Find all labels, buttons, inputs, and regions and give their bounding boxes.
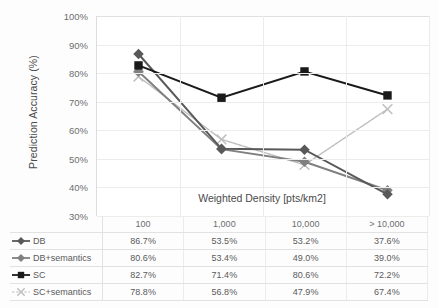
y-axis-tick-labels: 30%40%50%60%70%80%90%100% [34,0,92,216]
table-cell-value: 71.4% [184,267,265,284]
table-header-corner [10,216,103,233]
table-row: DB+semantics80.6%53.4%49.0%39.0% [10,250,428,267]
table-cell-value: 39.0% [346,250,427,267]
legend-marker-icon [12,270,30,280]
legend-label: SC [33,271,46,280]
plot-area [96,16,430,216]
legend-item-db-plus-semantics[interactable]: DB+semantics [10,250,103,267]
y-axis-tick-label: 40% [69,182,88,193]
table-header-row: 1001,00010,000> 10,000 [10,216,428,233]
x-axis-category-label: 10,000 [265,216,346,233]
table-cell-value: 53.2% [265,233,346,250]
data-table: 1001,00010,000> 10,000DB86.7%53.5%53.2%3… [10,216,428,301]
legend-label: DB [33,237,46,246]
table-row: SC+semantics78.8%56.8%47.9%67.4% [10,284,428,301]
table-cell-value: 86.7% [103,233,184,250]
y-axis-tick-label: 100% [64,11,88,22]
table-cell-value: 80.6% [265,267,346,284]
y-axis-tick-label: 60% [69,125,88,136]
table-cell-value: 67.4% [346,284,427,301]
x-axis-category-label: > 10,000 [346,216,427,233]
y-axis-tick-label: 50% [69,153,88,164]
y-axis-tick-label: 70% [69,96,88,107]
y-axis-tick-label: 80% [69,68,88,79]
table-cell-value: 37.6% [346,233,427,250]
table-cell-value: 53.5% [184,233,265,250]
x-axis-title: Weighted Density [pts/km2] [96,192,428,204]
column-separator [263,16,264,216]
column-separator [180,16,181,216]
x-axis-category-label: 100 [103,216,184,233]
legend-label: DB+semantics [33,254,91,263]
y-axis-tick-label: 90% [69,39,88,50]
legend-marker-icon [12,287,30,297]
legend-item-sc[interactable]: SC [10,267,103,284]
table-cell-value: 56.8% [184,284,265,301]
table-cell-value: 47.9% [265,284,346,301]
data-table-body: 1001,00010,000> 10,000DB86.7%53.5%53.2%3… [10,216,428,301]
table-cell-value: 82.7% [103,267,184,284]
table-cell-value: 78.8% [103,284,184,301]
table-row: SC82.7%71.4%80.6%72.2% [10,267,428,284]
legend-item-db[interactable]: DB [10,233,103,250]
legend-item-sc-plus-semantics[interactable]: SC+semantics [10,284,103,301]
column-separator [346,16,347,216]
x-axis-category-label: 1,000 [184,216,265,233]
table-cell-value: 49.0% [265,250,346,267]
table-cell-value: 80.6% [103,250,184,267]
table-cell-value: 72.2% [346,267,427,284]
legend-marker-icon [12,253,30,263]
table-row: DB86.7%53.5%53.2%37.6% [10,233,428,250]
legend-marker-icon [12,236,30,246]
legend-label: SC+semantics [33,288,91,297]
chart-figure: Prediction Accuracy (%) 30%40%50%60%70%8… [0,0,438,308]
table-cell-value: 53.4% [184,250,265,267]
